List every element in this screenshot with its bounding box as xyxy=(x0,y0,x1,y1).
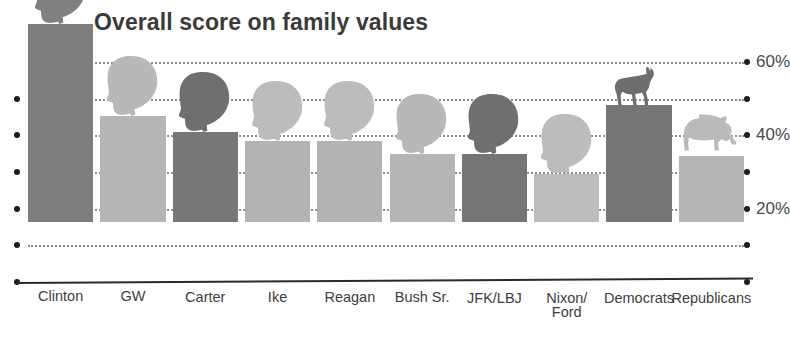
bar[interactable] xyxy=(679,156,744,222)
bar[interactable] xyxy=(462,154,527,222)
bar[interactable] xyxy=(28,24,93,222)
head-silhouette-svg xyxy=(249,80,307,141)
head-silhouette-svg xyxy=(538,113,596,174)
bar-column[interactable] xyxy=(462,1,527,222)
chart-container: Overall score on family values 20%40%60%… xyxy=(0,0,790,343)
head-silhouette-svg xyxy=(465,93,523,154)
axis-tick-dot xyxy=(14,206,20,212)
axis-tick-dot xyxy=(14,169,20,175)
head-silhouette-svg xyxy=(321,80,379,141)
head-silhouette-svg xyxy=(176,71,234,132)
head-icon xyxy=(465,93,523,154)
head-icon xyxy=(32,0,90,24)
bar-column[interactable] xyxy=(173,1,238,222)
axis-tick-dot xyxy=(744,206,750,212)
y-axis-tick-label: 40% xyxy=(756,125,790,145)
axis-tick-dot xyxy=(744,132,750,138)
axis-tick-dot xyxy=(744,169,750,175)
head-icon xyxy=(538,113,596,174)
head-icon xyxy=(249,80,307,141)
head-silhouette-svg xyxy=(32,0,90,24)
x-axis-label: Republicans xyxy=(667,291,756,305)
bar[interactable] xyxy=(173,132,238,222)
axis-tick-dot xyxy=(14,132,20,138)
donkey-silhouette-svg xyxy=(612,64,666,105)
bar-column[interactable] xyxy=(679,1,744,222)
bar-column[interactable] xyxy=(317,1,382,222)
axis-tick-dot xyxy=(744,242,750,248)
bar[interactable] xyxy=(245,141,310,222)
bar-column[interactable] xyxy=(606,1,671,222)
axis-tick-dot xyxy=(14,242,20,248)
head-icon xyxy=(393,93,451,154)
head-icon xyxy=(321,80,379,141)
axis-tick-dot xyxy=(744,279,750,285)
head-silhouette-svg xyxy=(104,55,162,116)
gridline xyxy=(28,245,744,247)
bar[interactable] xyxy=(390,154,455,222)
donkey-icon xyxy=(612,64,666,105)
axis-tick-dot xyxy=(744,96,750,102)
bar[interactable] xyxy=(100,116,165,222)
plot-area: 20%40%60% Clinton GW Carter Ike Reagan B… xyxy=(14,0,749,283)
bar[interactable] xyxy=(534,174,599,222)
head-silhouette-svg xyxy=(393,93,451,154)
y-axis-tick-label: 60% xyxy=(756,52,790,72)
bar-column[interactable] xyxy=(245,1,310,222)
elephant-silhouette-svg xyxy=(681,114,741,156)
bar[interactable] xyxy=(606,105,671,222)
head-icon xyxy=(176,71,234,132)
bar-column[interactable] xyxy=(28,1,93,222)
bar-column[interactable] xyxy=(390,1,455,222)
head-icon xyxy=(104,55,162,116)
bar-column[interactable] xyxy=(534,1,599,222)
bar-column[interactable] xyxy=(100,1,165,222)
elephant-icon xyxy=(681,114,741,156)
axis-tick-dot xyxy=(14,96,20,102)
y-axis-tick-label: 20% xyxy=(756,199,790,219)
axis-tick-dot xyxy=(744,59,750,65)
bar[interactable] xyxy=(317,141,382,222)
